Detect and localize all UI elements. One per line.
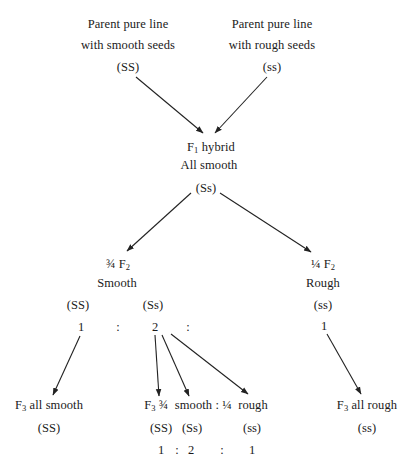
f2-ratio-1: 1: [78, 320, 84, 334]
arrow-f1-to-f2-rough: [220, 193, 311, 252]
arrow-f2-ss-to-f3-all-smooth: [53, 336, 80, 395]
arrow-f2-2-to-f3-ss-mixed: [162, 335, 189, 396]
f3-all-smooth-text: all smooth: [26, 398, 83, 412]
arrow-f2-2-to-f3-rough: [171, 334, 248, 394]
f2-rough-fraction: ¼: [311, 257, 320, 271]
arrows-layer: [0, 0, 415, 466]
f2-rough-phenotype: Rough: [306, 276, 340, 290]
arrow-f1-to-f2-smooth: [127, 193, 191, 251]
f2-rough-subscript: 2: [331, 262, 335, 272]
arrow-f2-2-to-f3-ss: [155, 335, 159, 396]
f3-segregating-text: ¾ smooth : ¼ rough: [156, 398, 268, 412]
f3-all-rough-genotype: (ss): [358, 421, 376, 435]
f3-genotype-ss: (ss): [243, 421, 261, 435]
f2-ratio-sep-2: :: [186, 320, 189, 334]
f3-segregating-prefix: F: [144, 398, 151, 412]
parent-smooth-line2: with smooth seeds: [81, 38, 175, 52]
f1-genotype: (Ss): [196, 181, 217, 195]
mendel-seed-inheritance-diagram: Parent pure line with smooth seeds (SS) …: [0, 0, 415, 466]
parent-smooth-genotype: (SS): [117, 60, 140, 74]
f1-title: F1 hybrid: [187, 140, 235, 154]
f2-smooth-prefix: F: [119, 257, 126, 271]
f3-ratio-2: 2: [188, 443, 194, 457]
f2-genotype-SS: (SS): [67, 298, 90, 312]
f3-ratio-1: 1: [158, 443, 164, 457]
parent-rough-line2: with rough seeds: [229, 38, 315, 52]
arrow-parent-rough-to-f1: [215, 77, 267, 133]
f3-ratio-sep-2: :: [220, 443, 223, 457]
f2-smooth-fraction: ¾: [106, 257, 115, 271]
f3-genotype-Ss: (Ss): [182, 421, 202, 435]
f3-ratio-sep-1: :: [175, 443, 178, 457]
f3-segregating-title: F3 ¾ smooth : ¼ rough: [144, 398, 268, 412]
f2-rough-title: ¼ F2: [311, 257, 335, 271]
f2-smooth-subscript: 2: [126, 262, 130, 272]
f2-ratio-sep-1: :: [116, 320, 119, 334]
f2-ratio-3: 1: [321, 319, 327, 333]
f1-suffix: hybrid: [198, 140, 234, 154]
f2-rough-prefix: F: [324, 257, 331, 271]
parent-rough-line1: Parent pure line: [232, 17, 313, 31]
f3-ratio-3: 1: [249, 443, 255, 457]
f2-smooth-phenotype: Smooth: [97, 276, 137, 290]
parent-smooth-line1: Parent pure line: [88, 17, 169, 31]
f2-genotype-Ss: (Ss): [143, 298, 164, 312]
f2-ratio-2: 2: [152, 320, 158, 334]
arrow-parent-smooth-to-f1: [136, 77, 203, 133]
f2-smooth-title: ¾ F2: [106, 257, 130, 271]
arrow-f2-rough-to-f3-all-rough: [327, 334, 361, 394]
f1-phenotype: All smooth: [181, 158, 238, 172]
f2-rough-genotype: (ss): [314, 298, 332, 312]
f3-all-rough-title: F3 all rough: [337, 398, 397, 412]
f3-all-smooth-title: F3 all smooth: [15, 398, 83, 412]
f3-all-smooth-genotype: (SS): [38, 421, 61, 435]
f1-prefix: F: [187, 140, 194, 154]
f3-all-smooth-prefix: F: [15, 398, 22, 412]
parent-rough-genotype: (ss): [263, 60, 281, 74]
f3-genotype-SS: (SS): [150, 421, 172, 435]
f3-all-rough-text: all rough: [348, 398, 397, 412]
f3-all-rough-prefix: F: [337, 398, 344, 412]
